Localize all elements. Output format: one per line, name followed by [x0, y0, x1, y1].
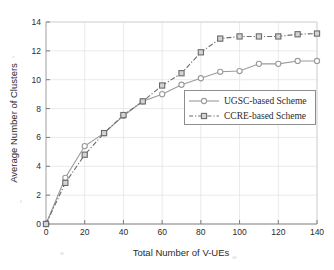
legend[interactable]: UGSC-based SchemeCCRE-based Scheme [185, 91, 316, 125]
legend-label: UGSC-based Scheme [224, 96, 307, 106]
legend-marker-sample [201, 113, 206, 118]
y-tick-label: 6 [36, 132, 41, 142]
data-point-marker [179, 82, 184, 87]
data-point-marker [276, 61, 281, 66]
data-point-marker [295, 32, 300, 37]
data-point-marker [198, 76, 203, 81]
x-axis-tick-labels: 020406080100120140 [44, 227, 325, 237]
data-point-marker [314, 58, 319, 63]
x-axis-label: Total Number of V-UEs [133, 247, 230, 258]
data-point-marker [121, 112, 126, 117]
data-point-marker [218, 69, 223, 74]
data-point-marker [256, 34, 261, 39]
data-point-marker [82, 143, 87, 148]
data-point-marker [63, 180, 68, 185]
legend-marker-sample [201, 98, 206, 103]
legend-label: CCRE-based Scheme [224, 111, 306, 121]
y-tick-label: 8 [36, 104, 41, 114]
data-point-marker [160, 92, 165, 97]
data-point-marker [179, 71, 184, 76]
y-tick-label: 4 [36, 161, 41, 171]
data-point-marker [295, 58, 300, 63]
data-point-marker [237, 34, 242, 39]
data-point-marker [82, 152, 87, 157]
data-point-marker [314, 31, 319, 36]
y-tick-label: 0 [36, 219, 41, 229]
x-tick-label: 120 [271, 227, 285, 237]
x-tick-label: 60 [157, 227, 167, 237]
x-tick-label: 40 [119, 227, 129, 237]
y-tick-label: 12 [32, 46, 42, 56]
data-point-marker [63, 175, 68, 180]
data-point-marker [276, 34, 281, 39]
x-tick-label: 140 [310, 227, 324, 237]
data-point-marker [198, 50, 203, 55]
data-point-marker [101, 131, 106, 136]
data-point-marker [218, 36, 223, 41]
y-axis-tick-labels: 02468101214 [32, 17, 42, 229]
data-point-marker [256, 61, 261, 66]
y-axis-label: Average Number of Clusters [8, 63, 19, 183]
data-point-marker [140, 99, 145, 104]
x-tick-label: 100 [232, 227, 246, 237]
y-tick-label: 14 [32, 17, 42, 27]
line-chart: 020406080100120140 02468101214 Total Num… [0, 0, 334, 270]
y-tick-label: 10 [32, 75, 42, 85]
x-tick-label: 80 [196, 227, 206, 237]
x-tick-label: 20 [80, 227, 90, 237]
data-point-marker [43, 221, 48, 226]
y-tick-label: 2 [36, 190, 41, 200]
data-point-marker [160, 83, 165, 88]
x-tick-label: 0 [44, 227, 49, 237]
data-point-marker [237, 68, 242, 73]
chart-screenshot: 020406080100120140 02468101214 Total Num… [0, 0, 334, 270]
